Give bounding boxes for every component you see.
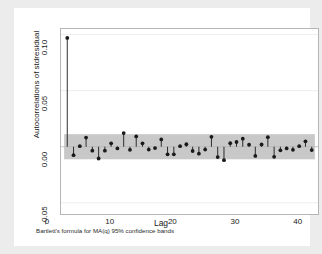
y-tick-label: 0.10 (40, 30, 49, 64)
acf-plot-svg (61, 29, 318, 214)
graph-region: Autocorrelations of stdresidual -0.050.0… (14, 8, 310, 246)
y-tick-label: 0.05 (40, 86, 49, 120)
y-tick-label: 0.00 (40, 142, 49, 176)
y-axis-title: Autocorrelations of stdresidual (32, 5, 41, 165)
gridlines (61, 35, 318, 203)
chart-screenshot: Autocorrelations of stdresidual -0.050.0… (0, 0, 322, 254)
plot-area (60, 28, 319, 215)
chart-footnote: Bartlett's formula for MA(q) 95% confide… (36, 227, 174, 234)
